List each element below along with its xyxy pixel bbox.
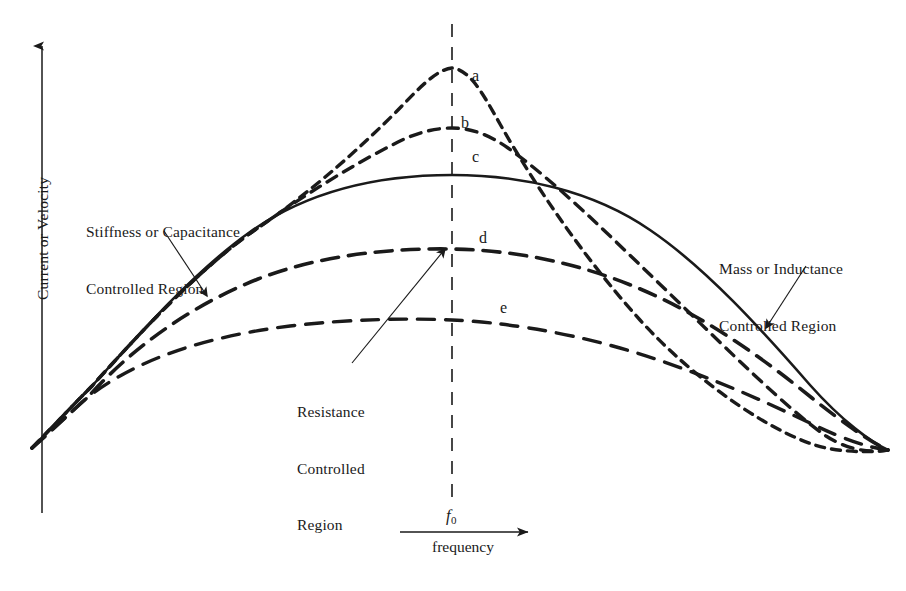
annotation-resistance-line2: Controlled xyxy=(297,460,365,479)
annotation-resistance-line1: Resistance xyxy=(297,403,365,422)
annotation-mass-line2: Controlled Region xyxy=(719,317,843,336)
y-axis-label: Current or Velocity xyxy=(34,177,53,300)
curve-label-d: d xyxy=(479,228,487,248)
curve-label-e: e xyxy=(500,298,507,318)
resistance-pointer-arrow xyxy=(352,249,445,363)
annotation-stiffness-line2: Controlled Region xyxy=(86,280,240,299)
resonance-curves-figure: Current or Velocity a b c d e Stiffness … xyxy=(0,0,906,591)
resonance-frequency-symbol: f xyxy=(446,506,451,525)
curve-label-a: a xyxy=(472,66,479,86)
annotation-mass: Mass or Inductance Controlled Region xyxy=(719,222,843,373)
annotation-mass-line1: Mass or Inductance xyxy=(719,260,843,279)
annotation-stiffness: Stiffness or Capacitance Controlled Regi… xyxy=(86,185,240,336)
x-axis-caption: frequency xyxy=(432,538,494,557)
curve-label-b: b xyxy=(461,113,469,133)
resonance-frequency-subscript: 0 xyxy=(451,514,457,526)
annotation-stiffness-line1: Stiffness or Capacitance xyxy=(86,223,240,242)
annotation-resistance-line3: Region xyxy=(297,516,365,535)
curve-label-c: c xyxy=(472,147,479,167)
annotation-resistance: Resistance Controlled Region xyxy=(297,365,365,573)
resonance-frequency-label: f0 xyxy=(446,506,456,526)
